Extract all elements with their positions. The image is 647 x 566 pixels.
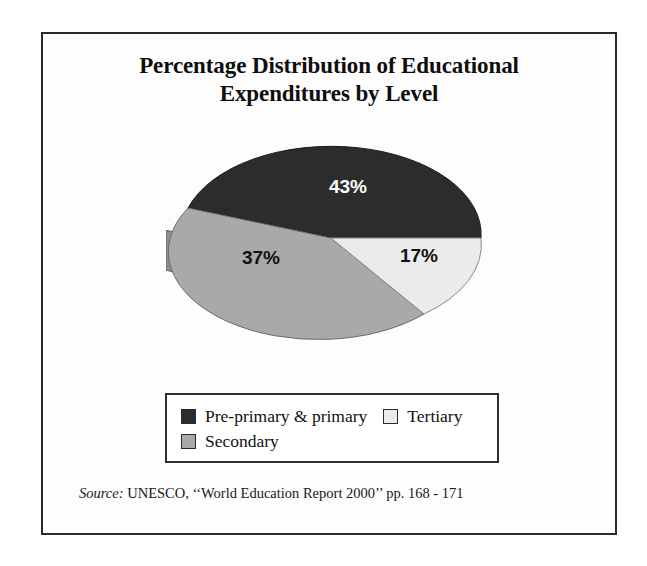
legend-label-tertiary: Tertiary — [407, 408, 462, 426]
page-title: Percentage Distribution of Educational E… — [43, 52, 615, 108]
title-line-1: Percentage Distribution of Educational — [43, 52, 615, 80]
chart-legend: Pre-primary & primary Tertiary Secondary — [165, 393, 499, 463]
legend-swatch-icon-tertiary — [383, 409, 398, 424]
slice-label-tertiary: 17% — [400, 245, 438, 266]
legend-swatch-icon-secondary — [181, 434, 196, 449]
legend-swatch-icon-pre-primary-primary — [181, 409, 196, 424]
slice-label-secondary: 37% — [242, 247, 280, 268]
pie-chart-svg: 43% 37% 17% — [166, 142, 496, 357]
legend-item-tertiary: Tertiary — [383, 408, 462, 426]
source-text: UNESCO, ‘‘World Education Report 2000’’ … — [124, 485, 464, 501]
pie-top-face — [168, 146, 481, 339]
legend-row-2: Secondary — [181, 429, 497, 454]
slice-label-pre-primary-primary: 43% — [329, 176, 367, 197]
legend-label-secondary: Secondary — [205, 433, 279, 451]
title-line-2: Expenditures by Level — [43, 80, 615, 108]
legend-row-1: Pre-primary & primary Tertiary — [181, 404, 497, 429]
source-label: Source: — [79, 485, 124, 501]
legend-label-pre-primary-primary: Pre-primary & primary — [205, 408, 367, 426]
legend-item-secondary: Secondary — [181, 433, 279, 451]
source-attribution: Source: UNESCO, ‘‘World Education Report… — [79, 485, 464, 502]
legend-item-pre-primary-primary: Pre-primary & primary — [181, 408, 367, 426]
figure-frame: Percentage Distribution of Educational E… — [41, 32, 617, 535]
pie-chart: 43% 37% 17% — [43, 142, 619, 372]
